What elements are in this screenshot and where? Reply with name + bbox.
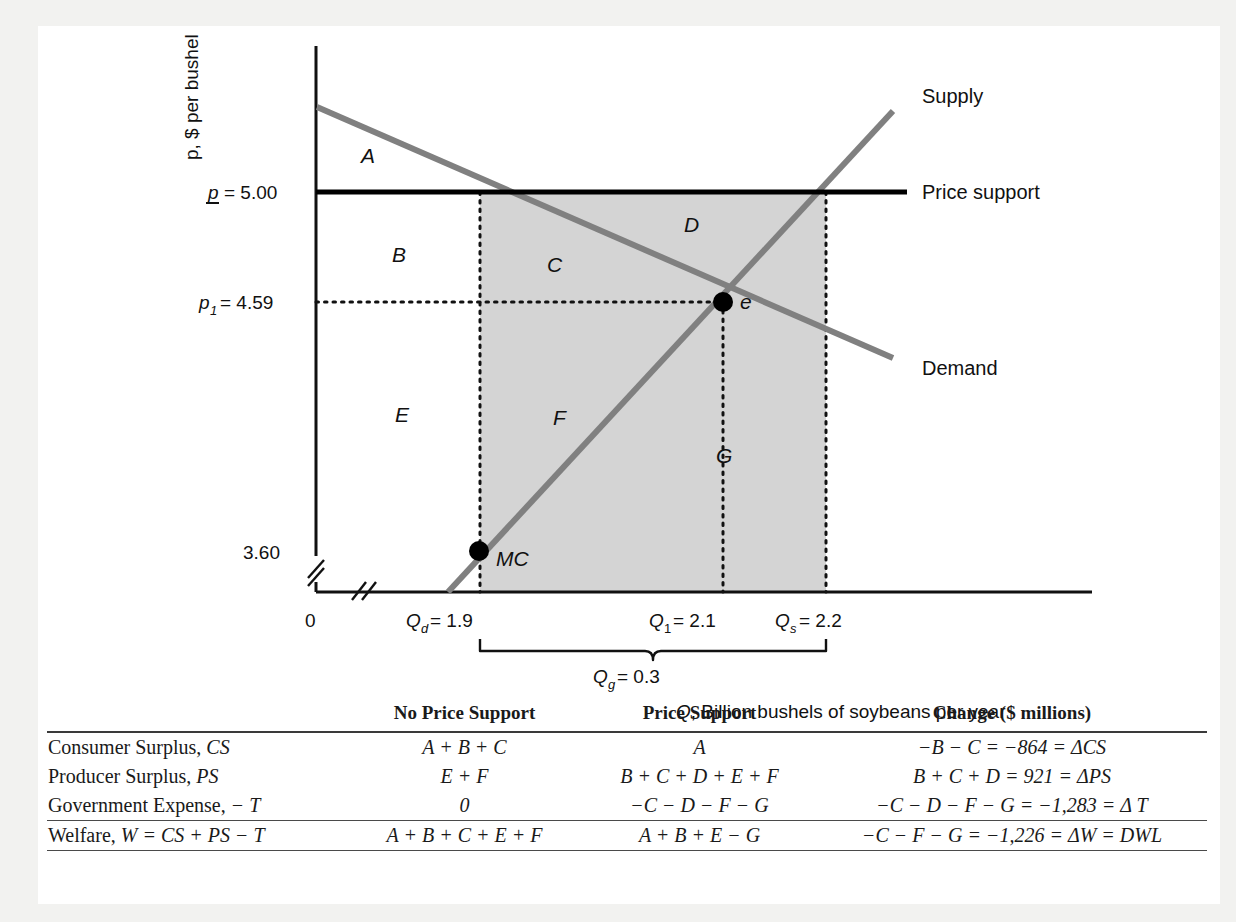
cell-change: −C − D − F − G = −1,283 = Δ T — [817, 791, 1207, 821]
tick-label-qd-q: Q — [406, 610, 421, 631]
tick-label-qs-value: = 2.2 — [799, 610, 842, 631]
row-label-text: Welfare, — [48, 824, 121, 846]
cell-support: A — [582, 732, 817, 762]
row-label-symbol: PS — [196, 765, 218, 787]
equilibrium-label: e — [740, 290, 752, 313]
cell-support: −C − D − F − G — [582, 791, 817, 821]
region-label-b: B — [392, 243, 406, 266]
cell-no-support: E + F — [347, 762, 582, 791]
cell-support: A + B + E − G — [582, 821, 817, 851]
price-support-label: Price support — [922, 181, 1040, 203]
tick-label-price-support-p: p — [207, 182, 219, 203]
row-label-government-expense: Government Expense, − T — [47, 791, 347, 821]
tick-label-qg: Q g = 0.3 — [593, 666, 660, 692]
table-row: Consumer Surplus, CS A + B + C A −B − C … — [47, 732, 1207, 762]
region-label-g: G — [716, 444, 732, 467]
tick-label-qd-sub: d — [421, 621, 429, 636]
welfare-table-wrapper: No Price Support Price Support Change ($… — [47, 702, 1207, 851]
tick-label-price-support-value: = 5.00 — [224, 182, 277, 203]
tick-label-qd: Q d = 1.9 — [406, 610, 473, 636]
tick-label-p1: p 1 = 4.59 — [198, 292, 273, 318]
table-row: Producer Surplus, PS E + F B + C + D + E… — [47, 762, 1207, 791]
tick-label-qg-sub: g — [608, 677, 616, 692]
y-axis-title: p, $ per bushel — [181, 34, 202, 160]
tick-label-qs: Q s = 2.2 — [775, 610, 842, 636]
region-label-d: D — [684, 213, 699, 236]
brace-qg — [480, 639, 826, 660]
demand-label: Demand — [922, 357, 998, 379]
cell-no-support: A + B + C — [347, 732, 582, 762]
table-row: Government Expense, − T 0 −C − D − F − G… — [47, 791, 1207, 821]
row-label-text: Producer Surplus, — [48, 765, 196, 787]
tick-label-qs-sub: s — [790, 621, 797, 636]
table-header-change: Change ($ millions) — [817, 702, 1207, 732]
row-label-symbol: CS — [206, 736, 229, 758]
tick-label-q1-q: Q — [649, 610, 664, 631]
tick-label-p1-p: p — [198, 292, 210, 313]
row-label-text: Consumer Surplus, — [48, 736, 206, 758]
cell-change: −C − F − G = −1,226 = ΔW = DWL — [817, 821, 1207, 851]
tick-label-mc-price: 3.60 — [243, 542, 280, 563]
tick-label-p1-sub: 1 — [210, 303, 217, 318]
equilibrium-point-e — [713, 292, 733, 312]
table-header-support: Price Support — [582, 702, 817, 732]
tick-label-qg-value: = 0.3 — [617, 666, 660, 687]
tick-label-p1-value: = 4.59 — [220, 292, 273, 313]
marginal-cost-label: MC — [496, 547, 529, 570]
table-row-total: Welfare, W = CS + PS − T A + B + C + E +… — [47, 821, 1207, 851]
region-label-c: C — [547, 253, 563, 276]
cell-no-support: A + B + C + E + F — [347, 821, 582, 851]
supply-label: Supply — [922, 85, 983, 107]
region-label-e: E — [395, 403, 410, 426]
row-label-symbol: − T — [231, 794, 261, 816]
cell-change: B + C + D = 921 = ΔPS — [817, 762, 1207, 791]
welfare-table: No Price Support Price Support Change ($… — [47, 702, 1207, 851]
row-label-symbol: W = CS + PS − T — [121, 824, 265, 846]
table-header-lead — [47, 702, 347, 732]
row-label-welfare: Welfare, W = CS + PS − T — [47, 821, 347, 851]
cell-no-support: 0 — [347, 791, 582, 821]
region-label-f: F — [553, 406, 567, 429]
row-label-consumer-surplus: Consumer Surplus, CS — [47, 732, 347, 762]
tick-label-qd-value: = 1.9 — [430, 610, 473, 631]
marginal-cost-point — [469, 541, 489, 561]
tick-label-q1-value: = 2.1 — [673, 610, 716, 631]
table-header-row: No Price Support Price Support Change ($… — [47, 702, 1207, 732]
row-label-producer-surplus: Producer Surplus, PS — [47, 762, 347, 791]
tick-label-q1-sub: 1 — [664, 621, 671, 636]
tick-label-price-support: p = 5.00 — [206, 182, 277, 203]
table-header-no-support: No Price Support — [347, 702, 582, 732]
origin-label: 0 — [305, 610, 316, 631]
row-label-text: Government Expense, — [48, 794, 231, 816]
cell-change: −B − C = −864 = ΔCS — [817, 732, 1207, 762]
tick-label-q1: Q 1 = 2.1 — [649, 610, 716, 636]
cell-support: B + C + D + E + F — [582, 762, 817, 791]
figure-page: e MC Supply Price support Demand A B C D… — [0, 0, 1236, 922]
tick-label-qs-q: Q — [775, 610, 790, 631]
region-label-a: A — [359, 144, 375, 167]
tick-label-qg-q: Q — [593, 666, 608, 687]
